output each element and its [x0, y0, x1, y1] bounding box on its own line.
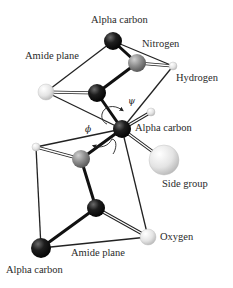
label-amide-plane-top: Amide plane	[25, 51, 79, 62]
label-psi: ψ	[128, 97, 135, 106]
carbonyl-carbon-bottom-atom	[87, 199, 105, 217]
label-amide-plane-bottom: Amide plane	[71, 248, 125, 259]
label-phi: ϕ	[85, 125, 91, 134]
oxygen-top-atom	[38, 84, 54, 100]
label-alpha-carbon-bottom: Alpha carbon	[6, 265, 63, 276]
nitrogen-bottom-atom	[72, 150, 90, 168]
nitrogen-top-atom	[128, 54, 146, 72]
label-nitrogen: Nitrogen	[142, 39, 179, 50]
carbonyl-carbon-top-atom	[88, 84, 106, 102]
peptide-diagram: Alpha carbon Nitrogen Amide plane Hydrog…	[0, 0, 233, 288]
alpha-carbon-middle-atom	[113, 120, 131, 138]
label-side-group: Side group	[162, 179, 208, 190]
alpha-carbon-bottom-atom	[31, 238, 51, 258]
alpha-carbon-top-atom	[104, 32, 122, 50]
side-group-atom	[149, 145, 179, 175]
hydrogen-top-atom	[169, 62, 177, 70]
backbone-bonds	[41, 41, 137, 248]
amide-plane-bottom	[36, 129, 148, 248]
hydrogen-left-atom	[32, 143, 40, 151]
label-hydrogen: Hydrogen	[176, 73, 218, 84]
oxygen-bottom-atom	[140, 229, 156, 245]
label-alpha-carbon-middle: Alpha carbon	[135, 123, 192, 134]
label-alpha-carbon-top: Alpha carbon	[91, 15, 148, 26]
hydrogen-mid-atom	[147, 108, 155, 116]
label-oxygen: Oxygen	[160, 232, 193, 243]
molecule-drawing	[0, 0, 233, 288]
